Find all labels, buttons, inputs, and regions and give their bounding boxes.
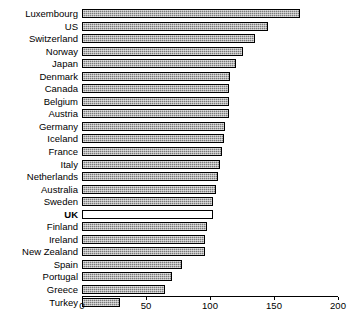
bar-row xyxy=(82,96,338,109)
category-label: US xyxy=(0,21,78,34)
bar-row xyxy=(82,146,338,159)
category-label: Japan xyxy=(0,58,78,71)
bar xyxy=(82,222,207,231)
bar-chart: LuxembourgUSSwitzerlandNorwayJapanDenmar… xyxy=(0,0,361,326)
bar-row xyxy=(82,133,338,146)
bar xyxy=(82,285,165,294)
bar-row xyxy=(82,21,338,34)
bar-row xyxy=(82,121,338,134)
bar-row xyxy=(82,221,338,234)
bar-row xyxy=(82,259,338,272)
bar-row xyxy=(82,33,338,46)
bar xyxy=(82,134,224,143)
x-tick-label: 200 xyxy=(330,300,346,311)
bar xyxy=(82,197,213,206)
plot-area xyxy=(82,8,338,296)
category-label: Switzerland xyxy=(0,33,78,46)
bar xyxy=(82,47,243,56)
category-label: Netherlands xyxy=(0,171,78,184)
category-label: Norway xyxy=(0,46,78,59)
bar xyxy=(82,235,205,244)
category-label: Australia xyxy=(0,184,78,197)
bar-row xyxy=(82,46,338,59)
bar-row xyxy=(82,209,338,222)
category-label: Belgium xyxy=(0,96,78,109)
bar-row xyxy=(82,246,338,259)
bar xyxy=(82,147,222,156)
bar-row xyxy=(82,8,338,21)
category-label: Ireland xyxy=(0,234,78,247)
bar-row xyxy=(82,171,338,184)
category-label: France xyxy=(0,146,78,159)
category-label: Luxembourg xyxy=(0,8,78,21)
bar-row xyxy=(82,284,338,297)
category-label: Sweden xyxy=(0,196,78,209)
category-label: Austria xyxy=(0,108,78,121)
bar-rows xyxy=(82,8,338,296)
bar xyxy=(82,272,172,281)
category-label: Canada xyxy=(0,83,78,96)
category-label: UK xyxy=(0,209,78,222)
bar xyxy=(82,160,220,169)
bar xyxy=(82,59,236,68)
category-label: Denmark xyxy=(0,71,78,84)
category-axis-labels: LuxembourgUSSwitzerlandNorwayJapanDenmar… xyxy=(0,8,78,296)
category-label: Portugal xyxy=(0,271,78,284)
bar-row xyxy=(82,108,338,121)
bar xyxy=(82,260,182,269)
bar-row xyxy=(82,184,338,197)
category-label: Spain xyxy=(0,259,78,272)
category-label: Finland xyxy=(0,221,78,234)
bar xyxy=(82,122,225,131)
category-label: Italy xyxy=(0,159,78,172)
bar xyxy=(82,9,300,18)
x-axis-ticks: 050100150200 xyxy=(0,297,361,317)
bar xyxy=(82,34,255,43)
bar-row xyxy=(82,234,338,247)
bar xyxy=(82,97,229,106)
x-tick-label: 50 xyxy=(141,300,152,311)
bar xyxy=(82,185,216,194)
bar-row xyxy=(82,159,338,172)
bar xyxy=(82,72,230,81)
bar-row xyxy=(82,196,338,209)
x-tick-label: 150 xyxy=(266,300,282,311)
bar xyxy=(82,172,218,181)
category-label: Germany xyxy=(0,121,78,134)
bar xyxy=(82,22,268,31)
x-tick-label: 100 xyxy=(202,300,218,311)
bar xyxy=(82,247,205,256)
bar-row xyxy=(82,271,338,284)
bar xyxy=(82,210,213,219)
category-label: New Zealand xyxy=(0,246,78,259)
bar-row xyxy=(82,71,338,84)
bar-row xyxy=(82,83,338,96)
bar-row xyxy=(82,58,338,71)
category-label: Greece xyxy=(0,284,78,297)
category-label: Iceland xyxy=(0,133,78,146)
bar xyxy=(82,84,229,93)
x-tick-label: 0 xyxy=(79,300,84,311)
bar xyxy=(82,109,229,118)
